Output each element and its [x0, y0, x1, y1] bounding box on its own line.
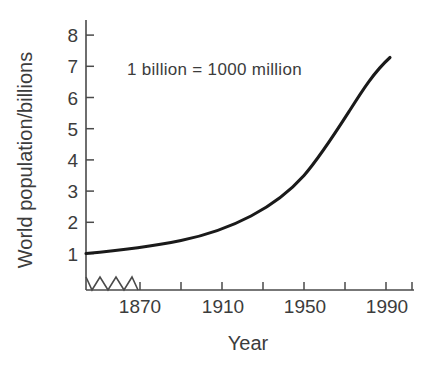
x-axis-break-zigzag-icon — [86, 277, 138, 290]
x-tick-label-1870: 1870 — [119, 296, 161, 317]
x-tick-label-1950: 1950 — [284, 296, 326, 317]
y-tick-label-1: 1 — [67, 244, 78, 265]
x-tick-label-1910: 1910 — [202, 296, 244, 317]
y-axis-title: World population/billions — [14, 52, 36, 268]
y-tick-label-6: 6 — [67, 88, 78, 109]
y-tick-label-3: 3 — [67, 181, 78, 202]
y-tick-label-2: 2 — [67, 212, 78, 233]
x-axis-ticks — [140, 282, 412, 290]
x-tick-label-1990: 1990 — [366, 296, 408, 317]
y-axis-ticks — [86, 35, 94, 253]
y-axis-tick-labels: 8 7 6 5 4 3 2 1 — [67, 25, 78, 265]
population-curve — [86, 58, 390, 254]
y-tick-label-7: 7 — [67, 56, 78, 77]
y-tick-label-8: 8 — [67, 25, 78, 46]
x-axis-title: Year — [228, 332, 269, 354]
y-tick-label-5: 5 — [67, 119, 78, 140]
y-tick-label-4: 4 — [67, 150, 78, 171]
annotation-billion-definition: 1 billion = 1000 million — [127, 60, 302, 79]
population-growth-chart: 8 7 6 5 4 3 2 1 1870 1910 1950 1990 — [0, 0, 430, 368]
chart-canvas: 8 7 6 5 4 3 2 1 1870 1910 1950 1990 — [0, 0, 430, 368]
x-axis-tick-labels: 1870 1910 1950 1990 — [119, 296, 408, 317]
